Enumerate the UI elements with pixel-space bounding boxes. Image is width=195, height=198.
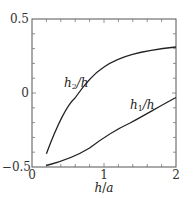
plot-frame — [32, 19, 176, 167]
ytick-mid: 0 — [21, 86, 29, 100]
ytick-top: 0.5 — [10, 12, 29, 26]
series-h1-line — [46, 98, 176, 166]
label-h1: h1/h — [130, 98, 155, 113]
xtick-1: 1 — [100, 168, 108, 182]
series-h2-line — [46, 47, 176, 154]
chart: 0.5 0 −0.5 0 1 2 h/a h2/h h1/h — [0, 0, 195, 198]
xtick-0: 0 — [28, 168, 36, 182]
ytick-bot: −0.5 — [2, 160, 31, 174]
xtick-2: 2 — [172, 168, 180, 182]
x-axis-label: h/a — [95, 181, 114, 195]
ticks — [32, 19, 176, 167]
label-h2: h2/h — [64, 76, 89, 91]
